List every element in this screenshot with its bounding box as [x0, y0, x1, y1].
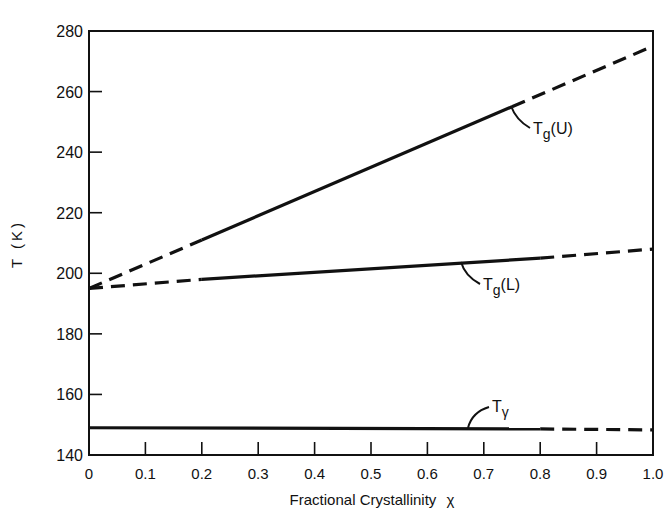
- curve-label: Tγ: [492, 398, 509, 420]
- x-tick-label: 0.4: [304, 465, 325, 482]
- y-tick-label: 180: [56, 326, 83, 343]
- plot-area: 00.10.20.30.40.50.60.70.80.91.0140160180…: [0, 0, 670, 523]
- y-tick-label: 260: [56, 84, 83, 101]
- curve-label: Tg(L): [483, 276, 520, 298]
- ticks: 00.10.20.30.40.50.60.70.80.91.0140160180…: [56, 23, 663, 482]
- x-tick-label: 0.2: [191, 465, 212, 482]
- line-t-dashed-right: [540, 429, 653, 430]
- x-axis-label: Fractional Crystallinity χ: [290, 491, 455, 508]
- x-tick-label: 0.3: [248, 465, 269, 482]
- label-leader-line: [468, 407, 489, 428]
- y-tick-label: 160: [56, 386, 83, 403]
- line-tgu-dashed-right: [512, 46, 653, 107]
- y-tick-label: 200: [56, 265, 83, 282]
- line-tgl-dashed-right: [540, 249, 653, 258]
- x-tick-label: 0.9: [586, 465, 607, 482]
- line-t-solid: [89, 428, 540, 429]
- x-tick-label: 0.6: [417, 465, 438, 482]
- axes: [89, 31, 653, 455]
- x-tick-label: 0: [85, 465, 93, 482]
- y-tick-label: 220: [56, 205, 83, 222]
- x-axis-label-text: Fractional Crystallinity: [290, 491, 437, 508]
- plot-frame: [89, 31, 653, 455]
- x-tick-label: 0.7: [473, 465, 494, 482]
- x-tick-label: 1.0: [643, 465, 664, 482]
- curve-labels: Tg(U)Tg(L)Tγ: [461, 106, 573, 428]
- line-tgl-dashed-left: [89, 279, 202, 288]
- curve-label: Tg(U): [533, 120, 573, 142]
- chart: 00.10.20.30.40.50.60.70.80.91.0140160180…: [0, 0, 670, 523]
- y-axis-label: T (K): [8, 220, 25, 268]
- x-tick-label: 0.1: [135, 465, 156, 482]
- data-lines: [89, 46, 653, 430]
- x-axis-symbol: χ: [447, 491, 455, 508]
- x-tick-label: 0.5: [361, 465, 382, 482]
- x-tick-label: 0.8: [530, 465, 551, 482]
- label-leader-line: [461, 262, 480, 284]
- y-tick-label: 140: [56, 447, 83, 464]
- y-tick-label: 240: [56, 144, 83, 161]
- y-tick-label: 280: [56, 23, 83, 40]
- label-leader-line: [511, 106, 530, 128]
- line-tgu-solid: [202, 107, 512, 240]
